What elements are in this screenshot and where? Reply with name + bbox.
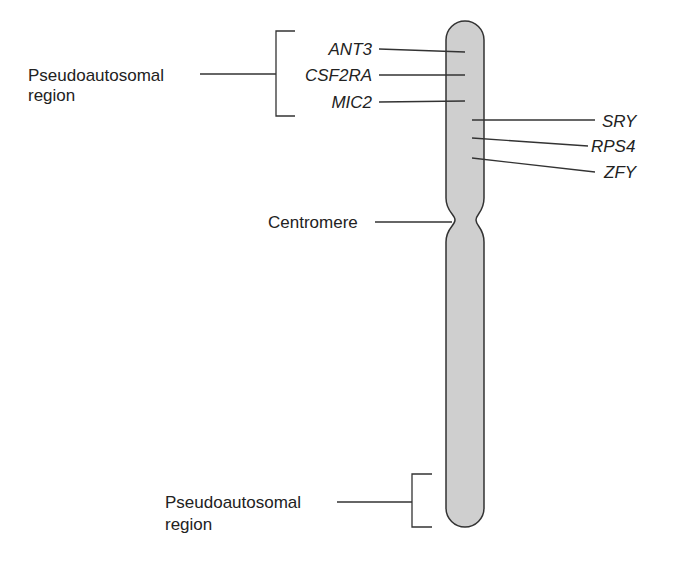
gene-label-csf2ra: CSF2RA	[305, 66, 372, 85]
y-chromosome-diagram: Pseudoautosomal region ANT3 CSF2RA MIC2 …	[0, 0, 678, 563]
gene-pointer-rps4	[472, 138, 588, 146]
bottom-region-label-line2: region	[165, 515, 212, 534]
top-region-label-line2: region	[28, 86, 75, 105]
top-region-label-line1: Pseudoautosomal	[28, 66, 164, 85]
gene-label-zfy: ZFY	[603, 163, 638, 182]
bottom-region-label-line1: Pseudoautosomal	[165, 493, 301, 512]
gene-label-rps4: RPS4	[591, 137, 635, 156]
gene-label-mic2: MIC2	[331, 93, 372, 112]
gene-label-ant3: ANT3	[328, 40, 373, 59]
gene-pointer-zfy	[472, 158, 595, 172]
centromere-label: Centromere	[268, 213, 358, 232]
chromosome	[446, 21, 484, 527]
bottom-pseudoautosomal-bracket	[337, 474, 432, 527]
top-pseudoautosomal-bracket	[200, 31, 295, 116]
diagram-canvas: Pseudoautosomal region ANT3 CSF2RA MIC2 …	[0, 0, 678, 563]
gene-label-sry: SRY	[602, 112, 638, 131]
